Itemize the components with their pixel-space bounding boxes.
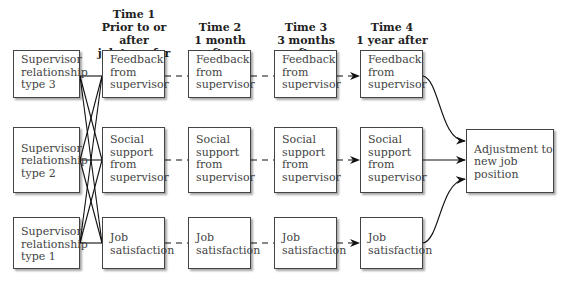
t2-feedback-label: Feedback from supervisor — [196, 53, 255, 91]
outcome-box: Adjustment to new job position — [466, 129, 554, 193]
t2-job-satisfaction-label: Job satisfaction — [196, 232, 260, 257]
outcome-label: Adjustment to new job position — [474, 144, 553, 182]
supervisor-type-2-box: Supervisor relationship type 2 — [13, 127, 80, 193]
t4-job-satisfaction-box: Job satisfaction — [360, 217, 423, 269]
supervisor-type-3-label: Supervisor relationship type 3 — [21, 53, 88, 91]
t3-job-satisfaction-box: Job satisfaction — [274, 217, 337, 269]
t2-social-support-label: Social support from supervisor — [196, 133, 255, 184]
t4-feedback-label: Feedback from supervisor — [368, 53, 427, 91]
supervisor-type-1-label: Supervisor relationship type 1 — [21, 225, 88, 263]
t4-feedback-box: Feedback from supervisor — [360, 50, 423, 98]
t1-job-satisfaction-box: Job satisfaction — [102, 217, 165, 269]
supervisor-type-3-box: Supervisor relationship type 3 — [13, 50, 80, 98]
t1-feedback-label: Feedback from supervisor — [110, 53, 169, 91]
t2-social-support-box: Social support from supervisor — [188, 127, 251, 193]
t1-feedback-box: Feedback from supervisor — [102, 50, 165, 98]
t3-feedback-label: Feedback from supervisor — [282, 53, 341, 91]
t3-job-satisfaction-label: Job satisfaction — [282, 232, 346, 257]
t3-social-support-box: Social support from supervisor — [274, 127, 337, 193]
t1-social-support-label: Social support from supervisor — [110, 133, 169, 184]
supervisor-type-2-label: Supervisor relationship type 2 — [21, 143, 88, 181]
t1-social-support-box: Social support from supervisor — [102, 127, 165, 193]
t2-job-satisfaction-box: Job satisfaction — [188, 217, 251, 269]
t3-feedback-box: Feedback from supervisor — [274, 50, 337, 98]
t4-social-support-label: Social support from supervisor — [368, 133, 427, 184]
supervisor-type-1-box: Supervisor relationship type 1 — [13, 217, 80, 269]
t4-social-support-box: Social support from supervisor — [360, 127, 423, 193]
t2-feedback-box: Feedback from supervisor — [188, 50, 251, 98]
t1-job-satisfaction-label: Job satisfaction — [110, 232, 174, 257]
outcome-links — [423, 76, 465, 243]
t4-job-satisfaction-label: Job satisfaction — [368, 232, 432, 257]
t3-social-support-label: Social support from supervisor — [282, 133, 341, 184]
